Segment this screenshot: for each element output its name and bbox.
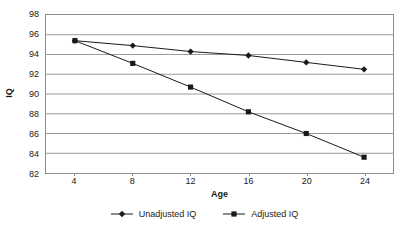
legend-label: Unadjusted IQ xyxy=(139,209,197,219)
data-point xyxy=(187,48,193,54)
y-axis-tick-labels: 828486889092949698 xyxy=(16,0,42,185)
x-axis-tick-labels: 4812162024 xyxy=(45,176,394,190)
x-tick-label: 20 xyxy=(302,176,312,186)
data-point xyxy=(361,66,367,72)
data-point xyxy=(72,38,77,43)
legend-marker-diamond-icon xyxy=(110,209,134,219)
y-tick-label: 86 xyxy=(29,130,39,139)
y-axis-title-label: IQ xyxy=(4,88,14,98)
y-tick-label: 92 xyxy=(29,70,39,79)
x-tick-label: 16 xyxy=(244,176,254,186)
legend-marker-square-icon xyxy=(222,209,246,219)
x-tick-label: 8 xyxy=(130,176,135,186)
x-tick-label: 4 xyxy=(72,176,77,186)
chart-plot xyxy=(46,15,393,173)
data-point xyxy=(188,85,193,90)
y-tick-label: 94 xyxy=(29,50,39,59)
data-point xyxy=(246,109,251,114)
y-tick-label: 82 xyxy=(29,170,39,179)
data-point xyxy=(130,42,136,48)
data-point xyxy=(361,155,366,160)
y-tick-label: 84 xyxy=(29,150,39,159)
data-point xyxy=(130,61,135,66)
data-point xyxy=(245,52,251,58)
y-tick-label: 88 xyxy=(29,110,39,119)
legend-label: Adjusted IQ xyxy=(251,209,298,219)
y-tick-label: 98 xyxy=(29,10,39,19)
chart-legend: Unadjusted IQAdjusted IQ xyxy=(0,209,408,219)
legend-item[interactable]: Unadjusted IQ xyxy=(110,209,197,219)
x-axis-title: Age xyxy=(45,189,394,199)
legend-item[interactable]: Adjusted IQ xyxy=(222,209,298,219)
series-line-1 xyxy=(75,41,364,158)
data-point xyxy=(303,59,309,65)
chart-container: IQ 828486889092949698 4812162024 Age Una… xyxy=(0,0,408,237)
data-point xyxy=(304,131,309,136)
x-tick-label: 24 xyxy=(360,176,370,186)
plot-area xyxy=(45,14,394,174)
x-tick-label: 12 xyxy=(185,176,195,186)
y-tick-label: 96 xyxy=(29,30,39,39)
y-tick-label: 90 xyxy=(29,90,39,99)
